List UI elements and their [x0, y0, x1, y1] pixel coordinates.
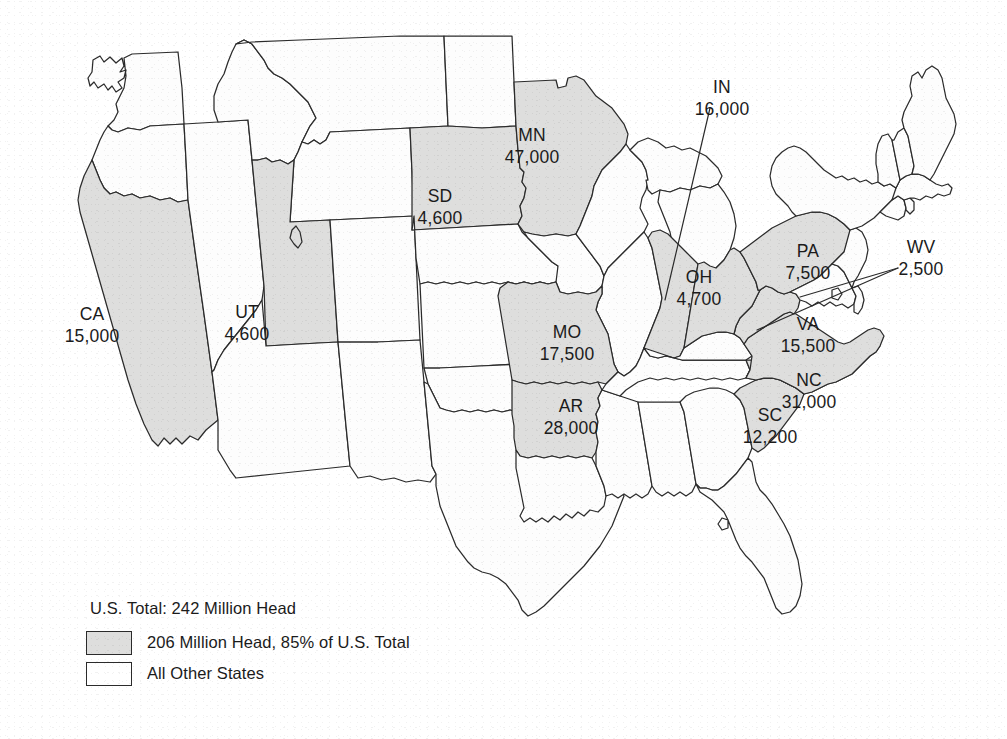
map-legend: U.S. Total: 242 Million Head 206 Million…	[86, 598, 506, 691]
state-label-ca-value: 15,000	[65, 326, 120, 346]
state-label-wv: WV 2,500	[899, 237, 944, 279]
state-wa	[88, 52, 184, 132]
us-choropleth-map: MN 47,000 SD 4,600 CA 15,000 UT 4,600 MO…	[0, 0, 1007, 739]
state-nd	[444, 36, 516, 128]
legend-swatch-other	[86, 662, 132, 686]
legend-label-other: All Other States	[147, 664, 264, 683]
state-label-ar-abbr: AR	[559, 396, 584, 416]
state-label-mo-value: 17,500	[540, 344, 595, 364]
state-label-mn-value: 47,000	[505, 147, 560, 167]
state-label-nc-value: 31,000	[782, 392, 837, 412]
state-label-in: IN 16,000	[695, 77, 750, 119]
state-label-wv-abbr: WV	[907, 237, 936, 257]
state-label-ut-abbr: UT	[235, 302, 259, 322]
state-label-ca-abbr: CA	[80, 304, 105, 324]
legend-row-shaded: 206 Million Head, 85% of U.S. Total	[86, 629, 506, 656]
legend-row-other: All Other States	[86, 660, 506, 687]
legend-swatch-shaded	[86, 631, 132, 655]
state-label-va-abbr: VA	[797, 314, 820, 334]
state-label-pa-abbr: PA	[797, 241, 820, 261]
state-label-in-value: 16,000	[695, 99, 750, 119]
state-label-nc-abbr: NC	[796, 370, 822, 390]
state-label-sd-abbr: SD	[428, 186, 453, 206]
state-label-wv-value: 2,500	[899, 259, 944, 279]
state-co	[330, 216, 420, 342]
state-nm	[338, 340, 436, 482]
legend-label-shaded: 206 Million Head, 85% of U.S. Total	[147, 633, 410, 652]
state-la	[516, 450, 606, 522]
state-label-va-value: 15,500	[781, 336, 836, 356]
legend-total-line: U.S. Total: 242 Million Head	[90, 598, 506, 618]
state-label-in-abbr: IN	[713, 77, 731, 97]
state-label-mo-abbr: MO	[553, 322, 582, 342]
state-label-oh-abbr: OH	[686, 267, 713, 287]
state-label-ut-value: 4,600	[225, 324, 270, 344]
state-label-sd-value: 4,600	[418, 208, 463, 228]
state-label-ar-value: 28,000	[544, 418, 599, 438]
state-label-pa-value: 7,500	[786, 263, 831, 283]
state-label-oh-value: 4,700	[677, 289, 722, 309]
state-label-mn-abbr: MN	[518, 125, 546, 145]
state-label-sc-value: 12,200	[743, 427, 798, 447]
state-label-sc-abbr: SC	[758, 405, 783, 425]
